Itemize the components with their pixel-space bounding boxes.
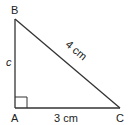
side-label-ab: c xyxy=(6,56,12,68)
vertex-label-c: C xyxy=(116,112,124,124)
right-triangle-diagram: B A C c 3 cm 4 cm xyxy=(0,0,132,125)
vertex-label-b: B xyxy=(11,4,18,16)
side-label-ac: 3 cm xyxy=(54,112,78,124)
vertex-label-a: A xyxy=(11,112,19,124)
right-angle-marker xyxy=(15,97,27,108)
side-bc xyxy=(15,19,120,108)
side-label-bc: 4 cm xyxy=(63,38,89,63)
